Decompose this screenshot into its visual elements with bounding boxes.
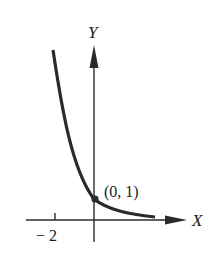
- graph: Y X − 2 (0, 1): [0, 0, 214, 257]
- y-axis-arrow-icon: [90, 45, 99, 68]
- x-axis-label: X: [191, 211, 203, 230]
- point-label: (0, 1): [104, 183, 139, 201]
- y-axis-label: Y: [88, 23, 99, 42]
- tick-label-minus-2: − 2: [36, 227, 57, 244]
- x-axis-arrow-icon: [165, 216, 187, 225]
- point-0-1: [91, 195, 98, 202]
